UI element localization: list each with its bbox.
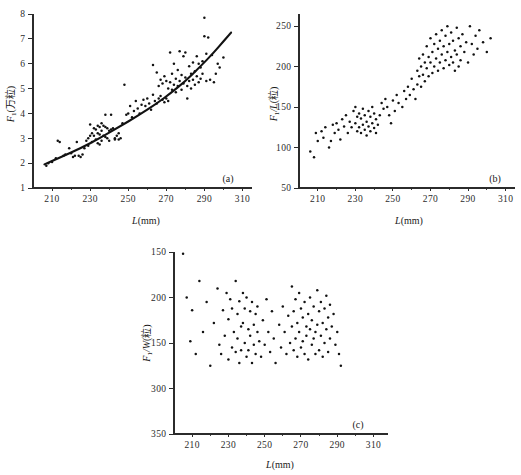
data-point: [236, 337, 239, 340]
data-point: [442, 67, 445, 70]
data-point: [289, 342, 292, 345]
data-point: [291, 325, 294, 328]
data-point: [176, 69, 179, 72]
data-point: [197, 81, 200, 84]
data-point: [467, 61, 470, 64]
data-point: [215, 72, 218, 75]
data-point: [146, 97, 149, 100]
data-point: [424, 61, 427, 64]
data-point: [184, 76, 187, 79]
y-tick-label: 200: [276, 62, 291, 72]
data-point: [335, 122, 338, 125]
y-tick-label: 1: [20, 183, 25, 193]
data-point: [188, 65, 191, 68]
data-point: [358, 112, 361, 115]
y-tick-label: 5: [20, 84, 25, 94]
data-point: [330, 140, 333, 143]
data-point: [234, 280, 237, 283]
data-point: [258, 340, 261, 343]
data-point: [431, 72, 434, 75]
data-point: [163, 101, 166, 104]
data-point: [74, 154, 77, 157]
data-point: [365, 120, 368, 123]
data-point: [205, 301, 208, 304]
data-point: [363, 128, 366, 131]
data-point: [91, 132, 94, 135]
panel-c-axes: [174, 252, 388, 434]
y-tick-label: 150: [151, 247, 166, 257]
data-point: [282, 305, 285, 308]
data-point: [322, 137, 325, 140]
data-point: [242, 322, 245, 325]
panel-a-y-axis-title: F1(万粒): [4, 86, 18, 123]
panel-a-axes: [33, 14, 252, 188]
data-point: [256, 305, 259, 308]
data-point: [318, 310, 321, 313]
data-point: [220, 353, 223, 356]
data-point: [409, 94, 412, 97]
data-point: [114, 138, 117, 141]
data-point: [425, 45, 428, 48]
data-point: [296, 355, 299, 358]
data-point: [203, 35, 206, 38]
data-point: [338, 353, 341, 356]
data-point: [201, 72, 204, 75]
data-point: [58, 141, 61, 144]
panel-a-svg: 12345678210230250270290310 (a) L(mm) F1(…: [0, 0, 262, 232]
data-point: [196, 75, 199, 78]
data-point: [245, 355, 248, 358]
x-tick-label: 290: [197, 194, 212, 204]
data-point: [136, 107, 139, 110]
data-point: [323, 307, 326, 310]
data-point: [95, 128, 98, 131]
data-point: [339, 138, 342, 141]
data-point: [287, 314, 290, 317]
data-point: [110, 113, 113, 116]
data-point: [448, 43, 451, 46]
data-point: [463, 51, 466, 54]
data-point: [227, 358, 230, 361]
data-point: [367, 125, 370, 128]
data-point: [292, 310, 295, 313]
panel-a-ticks: [28, 14, 242, 191]
data-point: [373, 127, 376, 130]
data-point: [81, 153, 84, 156]
y-tick-label: 6: [20, 59, 25, 69]
data-point: [452, 61, 455, 64]
data-point: [354, 106, 357, 109]
data-point: [329, 304, 332, 307]
x-tick-label: 270: [293, 440, 308, 450]
data-point: [129, 105, 132, 108]
panel-a-x-axis-title: L(mm): [131, 215, 160, 227]
data-point: [190, 87, 193, 90]
x-tick-label: 290: [460, 194, 475, 204]
data-point: [343, 125, 346, 128]
data-point: [377, 124, 380, 127]
data-point: [325, 328, 328, 331]
x-tick-label: 290: [329, 440, 344, 450]
data-point: [371, 106, 374, 109]
data-point: [298, 331, 301, 334]
data-point: [442, 45, 445, 48]
data-point: [318, 349, 321, 352]
y-tick-label: 100: [276, 143, 291, 153]
data-point: [229, 298, 232, 301]
data-point: [247, 349, 250, 352]
data-point: [173, 84, 176, 87]
data-point: [292, 349, 295, 352]
data-point: [222, 56, 225, 59]
data-point: [159, 95, 162, 98]
data-point: [410, 77, 413, 80]
data-point: [294, 337, 297, 340]
data-point: [369, 130, 372, 133]
data-point: [424, 80, 427, 83]
panel-b-x-axis-title: L(mm): [394, 215, 423, 227]
data-point: [439, 39, 442, 42]
data-point: [341, 118, 344, 121]
data-point: [194, 84, 197, 87]
data-point: [309, 328, 312, 331]
data-point: [311, 344, 314, 347]
data-point: [437, 48, 440, 51]
data-point: [269, 351, 272, 354]
data-point: [173, 62, 176, 65]
